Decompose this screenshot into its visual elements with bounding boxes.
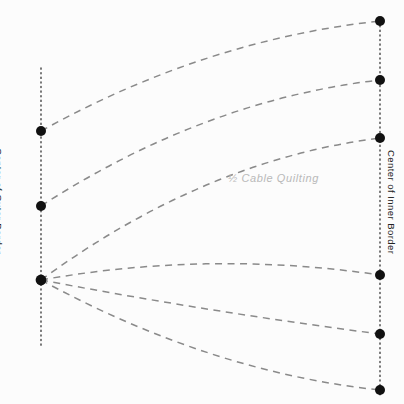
right-node-2 [375,75,385,85]
cable-curve-4 [41,264,380,280]
right-node-6 [375,385,385,395]
cable-curve-1 [41,21,380,131]
cable-curve-6 [41,280,380,390]
cable-curve-2 [41,80,380,206]
right-node-5 [375,329,385,339]
cable-curve-3 [41,138,380,280]
left-node-2 [36,201,46,211]
right-border-label: Center of Inner Border [386,150,397,254]
pattern-caption: ½ Cable Quilting [228,172,319,184]
left-node-1 [36,126,46,136]
left-node-3 [36,275,47,286]
diagram-canvas [0,0,404,404]
left-border-label: Center of Outer Border [0,148,4,255]
right-node-4 [375,270,385,280]
right-node-1 [375,16,385,26]
cable-quilting-diagram: Center of Outer Border Center of Inner B… [0,0,404,404]
cable-curve-5 [41,280,380,334]
right-node-3 [375,133,385,143]
